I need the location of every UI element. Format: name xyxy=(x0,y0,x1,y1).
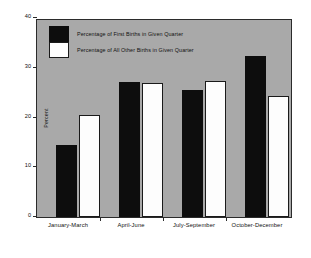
x-axis-label-january-march: January-March xyxy=(48,222,88,228)
x-axis-label-october-december: October-December xyxy=(232,222,283,228)
bar-other-births-october-december xyxy=(268,96,289,217)
legend-label-other-births: Percentage of All Other Births in Given … xyxy=(77,47,194,53)
x-tick-2 xyxy=(163,217,164,221)
x-axis-label-april-june: April-June xyxy=(117,222,144,228)
y-tick-label-40: 40 xyxy=(25,13,31,19)
x-tick-3 xyxy=(226,217,227,221)
bar-first-births-october-december xyxy=(245,56,266,217)
legend-label-first-births: Percentage of First Births in Given Quar… xyxy=(77,31,183,37)
legend-swatch-first-births xyxy=(49,26,69,42)
bar-first-births-january-march xyxy=(56,145,77,217)
bar-first-births-april-june xyxy=(119,82,140,217)
bar-other-births-april-june xyxy=(142,83,163,217)
y-tick-label-10: 10 xyxy=(25,162,31,168)
chart-figure: 0 10 20 30 40 xyxy=(0,0,311,258)
x-tick-1 xyxy=(100,217,101,221)
y-tick-label-0: 0 xyxy=(28,212,31,218)
legend-swatch-other-births xyxy=(49,42,69,58)
legend-entry-other-births: Percentage of All Other Births in Given … xyxy=(49,42,194,58)
y-tick-label-30: 30 xyxy=(25,63,31,69)
y-axis-label: Percent xyxy=(43,88,49,148)
bar-other-births-july-september xyxy=(205,81,226,217)
x-axis-label-july-september: July-September xyxy=(173,222,215,228)
legend-entry-first-births: Percentage of First Births in Given Quar… xyxy=(49,26,183,42)
y-tick-30: 30 xyxy=(33,67,37,68)
bar-other-births-january-march xyxy=(79,115,100,217)
plot-area: 0 10 20 30 40 xyxy=(36,19,292,218)
y-tick-0: 0 xyxy=(33,216,37,217)
bar-first-births-july-september xyxy=(182,90,203,217)
y-tick-label-20: 20 xyxy=(25,113,31,119)
y-tick-20: 20 xyxy=(33,117,37,118)
y-tick-40: 40 xyxy=(33,17,37,18)
y-tick-10: 10 xyxy=(33,166,37,167)
